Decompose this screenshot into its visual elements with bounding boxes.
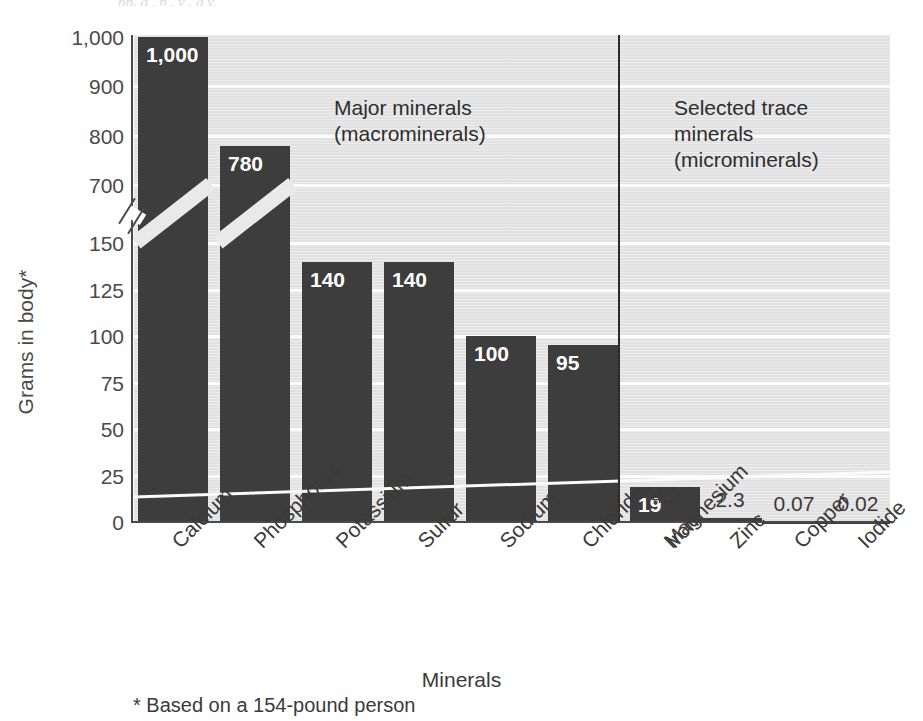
bar-value-label: 780 — [220, 152, 290, 176]
y-axis-line — [131, 35, 133, 522]
y-axis-title: Grams in body* — [14, 212, 38, 472]
x-axis-title: Minerals — [0, 668, 923, 692]
group-divider-line — [618, 35, 620, 522]
y-tick-label: 800 — [4, 126, 124, 147]
bar-value-label: 140 — [384, 268, 454, 292]
bar-value-label: 100 — [466, 342, 536, 366]
chart-footnote: * Based on a 154-pound person — [133, 694, 415, 717]
annotation-trace-minerals: Selected trace minerals (microminerals) — [674, 95, 890, 173]
y-tick-label: 0 — [4, 512, 124, 533]
cropped-caption-sliver: pp, g , p , y , g y, — [118, 0, 798, 6]
bar-value-label: 1,000 — [138, 43, 208, 67]
chart-plot-area: 1,00078014014010095194.22.30.070.02 Majo… — [134, 35, 890, 522]
bar-value-label: 140 — [302, 268, 372, 292]
y-tick-label: 1,000 — [4, 27, 124, 48]
y-tick-label: 900 — [4, 76, 124, 97]
bar — [138, 37, 208, 522]
y-tick-label: 700 — [4, 175, 124, 196]
bar-value-label: 95 — [548, 351, 618, 375]
gridline — [134, 85, 890, 88]
annotation-major-minerals: Major minerals (macrominerals) — [334, 95, 486, 147]
